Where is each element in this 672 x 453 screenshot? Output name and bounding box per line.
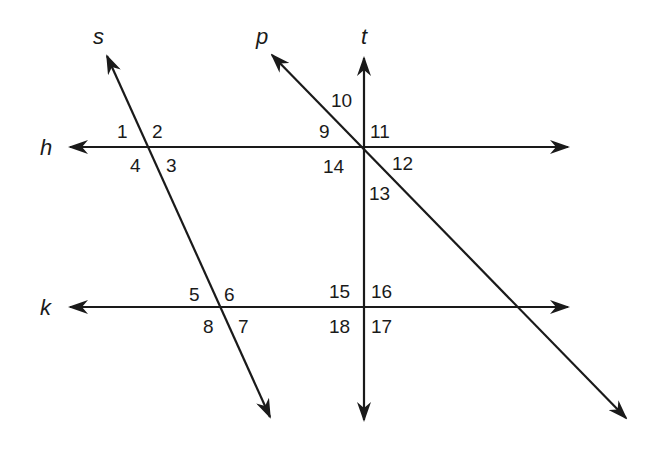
angle-label-10: 10 <box>331 90 352 111</box>
angle-label-18: 18 <box>329 316 350 337</box>
line-s <box>107 56 270 417</box>
angle-label-8: 8 <box>203 316 214 337</box>
line-label-t: t <box>361 24 368 49</box>
angle-label-6: 6 <box>224 284 235 305</box>
angle-label-16: 16 <box>371 281 392 302</box>
angle-label-2: 2 <box>152 121 163 142</box>
line-label-k: k <box>40 295 52 320</box>
parallel-lines-diagram: hkstp123456789101112131415161718 <box>0 0 672 453</box>
line-label-s: s <box>93 24 104 49</box>
angle-label-3: 3 <box>166 155 177 176</box>
angle-label-5: 5 <box>189 284 200 305</box>
angle-label-11: 11 <box>370 121 390 142</box>
angle-label-17: 17 <box>371 316 392 337</box>
angle-label-7: 7 <box>238 316 249 337</box>
line-p <box>272 55 626 418</box>
angle-label-15: 15 <box>329 281 350 302</box>
angle-label-4: 4 <box>130 155 141 176</box>
line-label-p: p <box>255 24 268 49</box>
angle-label-9: 9 <box>319 121 330 142</box>
angle-label-13: 13 <box>369 183 390 204</box>
angle-label-12: 12 <box>392 153 413 174</box>
angle-label-1: 1 <box>117 121 128 142</box>
line-label-h: h <box>40 135 52 160</box>
angle-label-14: 14 <box>323 156 345 177</box>
